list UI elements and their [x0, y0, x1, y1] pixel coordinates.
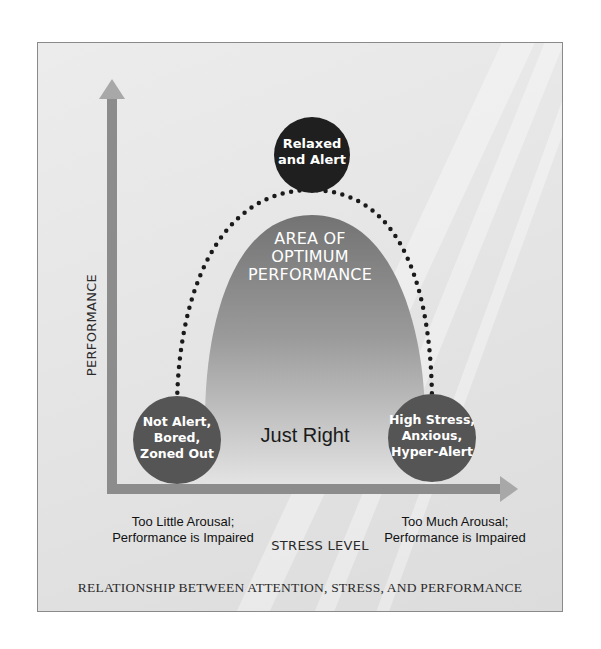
- x-axis-label: STRESS LEVEL: [265, 538, 375, 553]
- right-label-line: Hyper-Alert: [388, 444, 476, 460]
- left-note-line: Too Little Arousal;: [108, 514, 258, 530]
- left-circle-label: Not Alert, Bored, Zoned Out: [135, 414, 219, 462]
- left-note-line: Performance is Impaired: [108, 530, 258, 546]
- right-label-line: Anxious,: [388, 428, 476, 444]
- peak-circle-label: Relaxed and Alert: [268, 136, 356, 168]
- right-note: Too Much Arousal; Performance is Impaire…: [380, 514, 530, 546]
- area-label-line: OPTIMUM: [240, 248, 380, 266]
- just-right-label: Just Right: [250, 424, 360, 447]
- peak-label-line: Relaxed: [268, 136, 356, 152]
- right-note-line: Too Much Arousal;: [380, 514, 530, 530]
- y-axis-arrowhead: [99, 79, 125, 99]
- x-axis-shaft: [107, 484, 507, 494]
- peak-label-line: and Alert: [268, 152, 356, 168]
- left-note: Too Little Arousal; Performance is Impai…: [108, 514, 258, 546]
- left-label-line: Zoned Out: [135, 446, 219, 462]
- optimum-area-label: AREA OF OPTIMUM PERFORMANCE: [240, 230, 380, 284]
- left-label-line: Not Alert,: [135, 414, 219, 430]
- x-axis-arrowhead: [500, 476, 518, 502]
- y-axis-label: PERFORMANCE: [84, 274, 99, 376]
- y-axis-shaft: [107, 96, 117, 491]
- right-circle-label: High Stress, Anxious, Hyper-Alert: [388, 412, 476, 460]
- right-note-line: Performance is Impaired: [380, 530, 530, 546]
- left-label-line: Bored,: [135, 430, 219, 446]
- area-label-line: AREA OF: [240, 230, 380, 248]
- right-label-line: High Stress,: [388, 412, 476, 428]
- area-label-line: PERFORMANCE: [240, 266, 380, 284]
- diagram-title: RELATIONSHIP BETWEEN ATTENTION, STRESS, …: [37, 580, 563, 596]
